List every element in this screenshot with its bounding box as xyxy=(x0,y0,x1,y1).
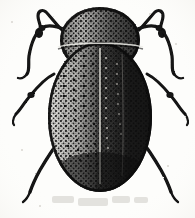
beetle-illustration-figure: Black and white stippled engraving of an… xyxy=(0,0,195,218)
beetle-engraving-canvas xyxy=(0,0,195,218)
